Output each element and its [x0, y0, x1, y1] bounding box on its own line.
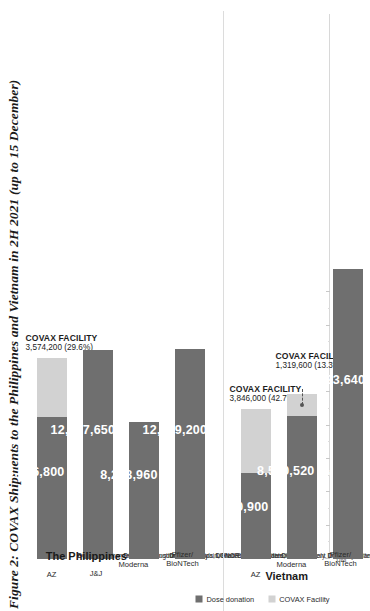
bar-value: 12,557,650: [51, 423, 116, 437]
axis-minor-tick: [328, 441, 330, 442]
bar-thephilippines-jj[interactable]: 12,557,650 (100%): [83, 350, 113, 559]
bar-segment-dose-donation: [83, 350, 113, 559]
category-label: AZ: [47, 571, 57, 580]
axis-tick: [326, 391, 330, 392]
bar-vietnam-moderna[interactable]: 8,570,520 (86.7%): [287, 394, 317, 559]
covax-facility-label: COVAX FACILITY: [26, 333, 98, 343]
axis-tick: [326, 425, 330, 426]
bar-percent: (100%): [212, 427, 238, 436]
chart-legend: Dose donation COVAX Facility: [196, 595, 330, 604]
legend-item-covax-facility: COVAX Facility: [268, 595, 329, 604]
group-label: The Philippines: [46, 550, 127, 562]
axis-tick: [326, 458, 330, 459]
axis-minor-tick: [328, 408, 330, 409]
axis-tick: [326, 291, 330, 292]
bar-value: 8,208,960: [100, 468, 157, 482]
category-label: Moderna: [118, 561, 148, 570]
category-label: AZ: [251, 571, 261, 580]
bar-vietnam-pfizerbiontech[interactable]: 17,423,640 (100%): [333, 269, 363, 559]
bar-segment-covax-facility: [37, 358, 67, 418]
category-label: Moderna: [276, 561, 306, 570]
bar-segment-dose-donation: [175, 349, 205, 559]
category-label: J&J: [90, 570, 103, 579]
legend-label-dose-donation: Dose donation: [207, 595, 255, 604]
bar-thephilippines-moderna[interactable]: 8,208,960 (100%): [129, 422, 159, 559]
category-label: BioNTech: [166, 560, 199, 569]
legend-label-covax-facility: COVAX Facility: [279, 595, 329, 604]
bar-segment-dose-donation: [129, 422, 159, 559]
axis-tick: [326, 525, 330, 526]
group-label: Vietnam: [265, 570, 308, 582]
legend-swatch-dose-donation: [196, 596, 203, 603]
axis-minor-tick: [328, 341, 330, 342]
axis-minor-tick: [328, 308, 330, 309]
bar-value: 8,570,520: [257, 464, 314, 478]
axis-tick: [326, 325, 330, 326]
bar-segment-dose-donation: [37, 417, 67, 559]
bar-segment-dose-donation: [333, 269, 363, 559]
bar-vietnam-az[interactable]: 5,170,900 (57.3%): [241, 409, 271, 559]
bar-segment-dose-donation: [241, 473, 271, 559]
axis-tick: [326, 491, 330, 492]
bar-value: 8,496,800: [7, 465, 64, 479]
donors-prefix: DONOR:: [216, 552, 242, 559]
axis-minor-tick: [328, 541, 330, 542]
bar-value: 5,170,900: [211, 500, 268, 514]
plot-area: 0M2M4M6M8M10M12M14M16M 8,496,800 (70.4%)…: [30, 14, 330, 559]
legend-swatch-covax-facility: [268, 596, 275, 603]
chart-title: Figure 2: COVAX Shipments to the Philipp…: [6, 9, 22, 609]
bar-value: 12,589,200: [143, 423, 208, 437]
chart-canvas: Figure 2: COVAX Shipments to the Philipp…: [0, 0, 370, 611]
group-separator: [223, 11, 224, 611]
bar-value: 17,423,640: [301, 373, 366, 387]
category-label: BioNTech: [324, 560, 357, 569]
axis-minor-tick: [328, 508, 330, 509]
bar-segment-dose-donation: [287, 416, 317, 559]
bar-thephilippines-az[interactable]: 8,496,800 (70.4%): [37, 358, 67, 559]
bar-thephilippines-pfizerbiontech[interactable]: 12,589,200 (100%): [175, 349, 205, 559]
covax-facility-label: COVAX FACILITY: [230, 384, 302, 394]
legend-item-dose-donation: Dose donation: [196, 595, 255, 604]
